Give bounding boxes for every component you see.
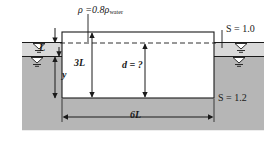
label-3L: 3L <box>74 58 85 68</box>
label-s-lower: S = 1.2 <box>218 93 247 103</box>
label-6L: 6L <box>130 110 141 120</box>
density-label: ρ =0.8ρwater <box>78 5 123 16</box>
label-s-upper: S = 1.0 <box>226 24 255 34</box>
label-L: L <box>39 43 45 53</box>
density-equals: =0.8 <box>83 4 105 15</box>
label-draft-d: d = ? <box>122 60 143 70</box>
label-y: y <box>62 70 66 80</box>
figure-container: ρ =0.8ρwater L y 3L d = ? 6L S = 1.0 S =… <box>0 0 275 144</box>
diagram-svg <box>0 0 275 144</box>
density-water-subscript: water <box>109 8 123 15</box>
